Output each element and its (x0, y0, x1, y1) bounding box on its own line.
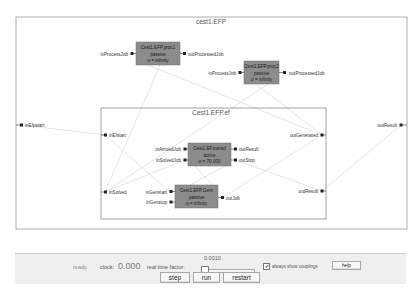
svg-text:outResult: outResult (239, 147, 259, 152)
model-diagram: cest1.EFP inEfpstart outResult Cest1.EFP… (0, 0, 420, 240)
port-outResult-inner[interactable]: outResult (299, 189, 326, 194)
real-time-factor-value: 0.0010 (204, 255, 221, 261)
coupling-line (190, 166, 225, 185)
port-inSolved[interactable]: inSolved (101, 190, 127, 195)
control-panel: ready clock: 0.000 real time factor: 0.0… (15, 253, 406, 284)
svg-text:σ = 70.000: σ = 70.000 (198, 159, 221, 164)
always-show-couplings-checkbox[interactable]: ✔ (263, 263, 270, 270)
port-outGenerated[interactable]: outGenerated (290, 133, 326, 138)
atomic-block-transd[interactable]: Cest1.EF.transd active σ = 70.000 (188, 143, 231, 166)
svg-text:inGenstart: inGenstart (146, 190, 168, 195)
coupling-line (105, 135, 170, 192)
clock-label: clock: (100, 264, 114, 270)
run-button[interactable]: run (193, 272, 220, 283)
svg-text:passive: passive (189, 195, 205, 200)
svg-text:σ = infinity: σ = infinity (251, 77, 273, 82)
svg-text:inProcessJob: inProcessJob (100, 52, 128, 57)
atomic-block-proc2[interactable]: Cest1.EFP.proc2 passive σ = infinity (244, 61, 279, 84)
port-inEfstart[interactable]: inEfstart (101, 133, 127, 138)
port-proc1-inProcessJob[interactable]: inProcessJob (100, 52, 136, 57)
always-show-couplings-label: always show couplings (272, 264, 318, 269)
port-proc1-outProcessedJob[interactable]: outProcessedJob (180, 52, 224, 57)
svg-text:σ = infinity: σ = infinity (147, 58, 169, 63)
always-show-couplings-option[interactable]: ✔ always show couplings (263, 263, 318, 270)
svg-text:Cest1.EF.transd: Cest1.EF.transd (193, 146, 226, 151)
outer-model-title: cest1.EFP (196, 18, 226, 25)
svg-text:outJob: outJob (226, 196, 240, 201)
svg-text:outResult: outResult (378, 123, 398, 128)
clock-value: 0.000 (118, 261, 141, 271)
svg-text:active: active (203, 153, 215, 158)
svg-text:passive: passive (254, 71, 270, 76)
atomic-block-proc1[interactable]: Cest1.EFP.proc1 passive σ = infinity (136, 42, 180, 65)
svg-text:inSolved: inSolved (109, 190, 127, 195)
svg-text:inGenstop: inGenstop (146, 200, 167, 205)
coupling-line (256, 84, 322, 135)
atomic-block-genr[interactable]: Cest1.EFP.Genr passive σ = infinity (175, 185, 218, 208)
coupling-line (195, 166, 212, 185)
svg-text:inEfstart: inEfstart (109, 133, 127, 138)
port-inGenstop[interactable]: inGenstop (146, 200, 175, 205)
svg-text:Cest1.EFP.Genr: Cest1.EFP.Genr (180, 188, 214, 193)
couplings (22, 65, 401, 198)
step-button[interactable]: step (160, 272, 190, 283)
svg-text:σ = infinity: σ = infinity (186, 201, 208, 206)
help-button[interactable]: help (332, 261, 361, 270)
port-inArrivedJob[interactable]: inArrivedJob (155, 147, 188, 152)
svg-text:inSolvedJob: inSolvedJob (156, 158, 181, 163)
restart-button[interactable]: restart (223, 272, 260, 283)
port-transd-outResult[interactable]: outResult (231, 147, 259, 152)
port-outJob[interactable]: outJob (218, 196, 240, 201)
port-outResult-outer[interactable]: outResult (378, 123, 407, 128)
coupling-line (105, 65, 160, 192)
svg-text:passive: passive (150, 52, 166, 57)
svg-text:Cest1.EFP.proc2: Cest1.EFP.proc2 (244, 64, 279, 69)
port-inGenstart[interactable]: inGenstart (146, 190, 175, 195)
coupling-line (105, 84, 268, 192)
svg-text:outGenerated: outGenerated (290, 133, 319, 138)
svg-text:outProcessedJob: outProcessedJob (289, 71, 325, 76)
svg-text:outProcessedJob: outProcessedJob (188, 52, 224, 57)
svg-text:inProcessJob: inProcessJob (208, 71, 236, 76)
svg-text:outResult: outResult (299, 189, 319, 194)
coupling-line (148, 65, 322, 135)
svg-text:inEfpstart: inEfpstart (25, 123, 45, 128)
svg-text:Cest1.EFP.proc1: Cest1.EFP.proc1 (141, 45, 176, 50)
coupling-line (322, 125, 401, 191)
status-text: ready (73, 264, 87, 270)
coupling-line (235, 160, 322, 191)
port-outStop[interactable]: outStop (231, 158, 255, 163)
svg-text:outStop: outStop (239, 158, 255, 163)
port-inEfpstart[interactable]: inEfpstart (16, 123, 45, 128)
real-time-factor-label: real time factor: (147, 264, 185, 270)
port-proc2-outProcessedJob[interactable]: outProcessedJob (279, 71, 325, 76)
port-proc2-inProcessJob[interactable]: inProcessJob (208, 71, 244, 76)
inner-model-title: Cest1.EFP.ef (192, 109, 230, 116)
svg-text:inArrivedJob: inArrivedJob (155, 147, 181, 152)
